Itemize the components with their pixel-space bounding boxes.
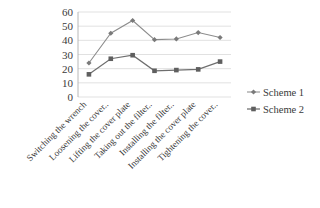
legend-marker — [251, 89, 256, 94]
data-point-marker — [108, 56, 113, 61]
data-point-marker — [152, 68, 157, 73]
legend-item-label[interactable]: Scheme 2 — [263, 104, 304, 115]
series-lines — [89, 21, 220, 75]
data-point-marker — [174, 36, 179, 41]
y-tick-label: 0 — [68, 91, 74, 103]
y-tick-label: 10 — [62, 77, 74, 89]
y-tick-labels: 0102030405060 — [62, 6, 74, 103]
chart-canvas: 0102030405060 Switching the wrenchLoosen… — [0, 0, 320, 208]
data-point-marker — [196, 67, 201, 72]
data-point-marker — [130, 53, 135, 58]
legend-marker — [251, 107, 256, 112]
y-tick-label: 40 — [62, 34, 74, 46]
y-tick-label: 20 — [62, 63, 74, 75]
line-chart: 0102030405060 Switching the wrenchLoosen… — [0, 0, 320, 208]
data-point-marker — [87, 72, 92, 77]
data-point-marker — [217, 35, 222, 40]
y-tick-label: 30 — [62, 49, 74, 61]
data-point-marker — [174, 68, 179, 73]
x-axis-labels: Switching the wrenchLoosening the cover.… — [25, 99, 220, 171]
data-point-marker — [196, 30, 201, 35]
chart-legend: Scheme 1Scheme 2 — [247, 87, 304, 115]
legend-item-label[interactable]: Scheme 1 — [263, 87, 304, 98]
gridlines — [78, 12, 231, 97]
data-point-marker — [218, 59, 223, 64]
y-tick-label: 60 — [62, 6, 74, 18]
y-tick-label: 50 — [62, 20, 74, 32]
